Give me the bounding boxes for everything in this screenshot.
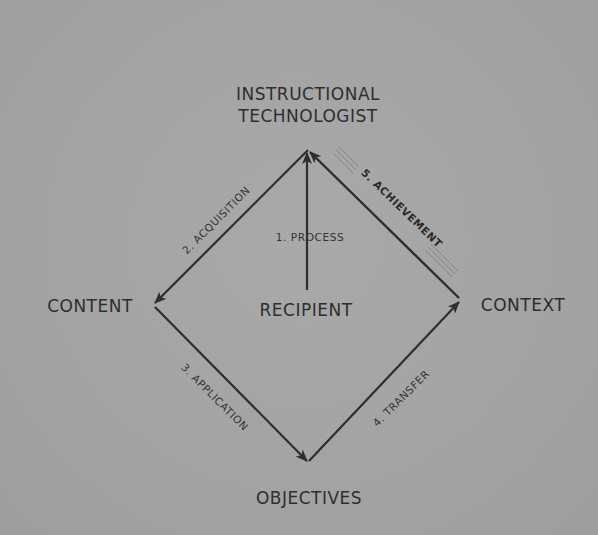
achievement-arrow [310,152,459,298]
label-process: 1. PROCESS [270,231,350,243]
node-instructional-technologist: INSTRUCTIONAL TECHNOLOGIST [208,83,408,127]
achievement-emphasis-lines [333,147,458,277]
node-content: CONTENT [40,295,140,317]
node-top-line2: TECHNOLOGIST [208,105,408,127]
diagram-canvas: INSTRUCTIONAL TECHNOLOGIST CONTENT CONTE… [0,0,598,535]
diagram-lines [0,0,598,535]
application-arrow [155,307,307,461]
acquisition-arrow [155,150,308,303]
node-recipient: RECIPIENT [250,299,362,321]
node-objectives: OBJECTIVES [244,487,374,509]
transfer-arrow [309,302,459,461]
node-top-line1: INSTRUCTIONAL [208,83,408,105]
node-context: CONTEXT [473,294,573,316]
